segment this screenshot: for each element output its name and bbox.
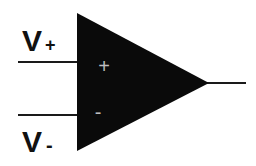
op-amp-triangle — [77, 13, 209, 151]
op-amp-diagram: + - V + V - — [0, 0, 256, 166]
non-inverting-label: V — [22, 24, 42, 57]
inverting-label: V — [22, 125, 42, 158]
non-inverting-inner-sign: + — [98, 55, 110, 77]
inverting-inner-sign: - — [95, 101, 102, 123]
non-inverting-subscript: + — [45, 35, 56, 55]
inverting-subscript: - — [46, 134, 53, 156]
